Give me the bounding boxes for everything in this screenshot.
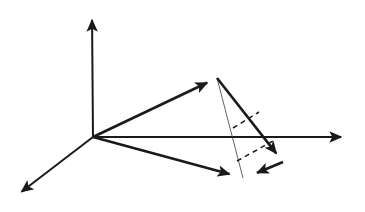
vectors-group [93,83,229,174]
upper-vector [93,83,207,137]
z-axis-line [22,137,93,192]
apex-to-right-edge [217,78,276,153]
vector-diagram-canvas [0,0,365,212]
vector-diagram-svg [0,0,365,212]
lower-vector [93,137,229,174]
right-to-base-edge [257,162,283,173]
axes-group [22,20,341,192]
y-axis-line [92,20,93,137]
solid-edges-group [217,78,283,173]
